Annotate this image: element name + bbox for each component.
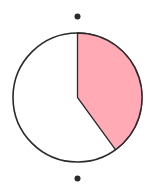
- top-dot: [75, 14, 81, 20]
- bottom-dot: [75, 176, 81, 182]
- fraction-circle-diagram: [0, 0, 149, 189]
